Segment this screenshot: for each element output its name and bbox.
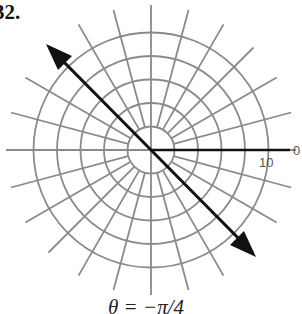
grid-ray (11, 113, 128, 144)
grid-ray (114, 173, 145, 290)
grid-ray (157, 10, 188, 127)
radius-ten-label: 10 (259, 155, 273, 170)
grid-ray (114, 10, 145, 127)
grid-ray (174, 156, 291, 187)
grid-ray (174, 113, 291, 144)
grid-ray (11, 156, 128, 187)
caption: θ = −π/4 (108, 295, 184, 314)
grid-ray (157, 173, 188, 290)
angle-zero-label: 0 (293, 143, 300, 158)
polar-plot: 0 10 (0, 0, 302, 314)
